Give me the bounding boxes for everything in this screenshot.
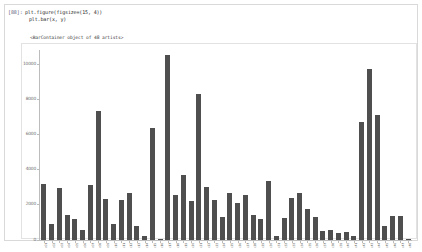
x-tick-label: c31 [278, 243, 281, 248]
code-line: plt.bar(x, y) [29, 16, 66, 23]
x-tick-label: c04 [68, 243, 71, 248]
bar [150, 128, 155, 240]
y-tick-mark [37, 134, 39, 135]
x-tick-label: c17 [169, 243, 172, 248]
y-tick-mark [37, 169, 39, 170]
y-tick-mark [37, 240, 39, 241]
x-tick-label: c24 [223, 243, 226, 248]
x-tick-label: c27 [247, 243, 250, 248]
x-tick-label: c40 [347, 243, 350, 248]
x-tick-label: c16 [161, 243, 164, 248]
bar [49, 224, 54, 240]
x-tick-label: c22 [208, 243, 211, 248]
x-tick-label: c38 [332, 243, 335, 248]
x-tick-label: c15 [154, 243, 157, 248]
bar [305, 209, 310, 240]
bar [196, 94, 201, 240]
x-tick-label: c03 [61, 243, 64, 248]
bar-series [40, 50, 412, 240]
bar [158, 239, 163, 240]
x-tick-label: c34 [301, 243, 304, 248]
bar [351, 236, 356, 240]
bar [72, 219, 77, 240]
y-tick-label: 8000 [26, 96, 36, 102]
x-tick-label: c09 [107, 243, 110, 248]
y-tick-label: 2000 [26, 201, 36, 207]
bar [80, 230, 85, 240]
x-tick-label: c46 [394, 243, 397, 248]
bar [359, 122, 364, 240]
bar [406, 239, 411, 240]
x-tick-label: c37 [324, 243, 327, 248]
bar [243, 195, 248, 240]
bar [88, 185, 93, 240]
x-tick-label: c30 [270, 243, 273, 248]
y-tick-label: 0 [33, 237, 36, 243]
x-tick-label: c20 [192, 243, 195, 248]
bar [204, 187, 209, 240]
y-tick-label: 10000 [23, 61, 36, 67]
x-tick-label: c23 [216, 243, 219, 248]
code-line: plt.figure(figsize=(15, 4)) [25, 9, 102, 16]
x-tick-label: c48 [409, 243, 412, 248]
bar [41, 184, 46, 240]
bar [65, 215, 70, 241]
bar [313, 217, 318, 240]
x-tick-label: c11 [123, 243, 126, 248]
x-tick-label: c42 [363, 243, 366, 248]
x-tick-label: c06 [84, 243, 87, 248]
bar [320, 231, 325, 240]
x-tick-label: c41 [355, 243, 358, 248]
y-tick-mark [37, 99, 39, 100]
bar [220, 217, 225, 240]
notebook-cell: [88]: plt.figure(figsize=(15, 4)) plt.ba… [4, 4, 418, 241]
bar [282, 218, 287, 240]
cell-prompt-label: [88]: [8, 9, 23, 16]
matplotlib-figure-output: 0200040006000800010000 c01c02c03c04c05c0… [21, 43, 417, 239]
code-input-area[interactable]: [88]: plt.figure(figsize=(15, 4)) plt.ba… [5, 9, 419, 29]
x-tick-label: c29 [262, 243, 265, 248]
x-tick-label: c39 [340, 243, 343, 248]
bar [274, 236, 279, 240]
y-tick-mark [37, 64, 39, 65]
x-tick-label: c05 [76, 243, 79, 248]
x-axis-ticks: c01c02c03c04c05c06c07c08c09c10c11c12c13c… [40, 241, 412, 252]
bar [134, 226, 139, 240]
bar [297, 193, 302, 241]
x-tick-label: c02 [53, 243, 56, 248]
bar [111, 224, 116, 240]
bar [258, 219, 263, 240]
x-tick-label: c36 [316, 243, 319, 248]
x-tick-label: c47 [402, 243, 405, 248]
x-tick-label: c07 [92, 243, 95, 248]
cell-text-output: <BarContainer object of 48 artists> [30, 34, 123, 41]
x-tick-label: c26 [239, 243, 242, 248]
bar [289, 198, 294, 240]
x-tick-label: c33 [293, 243, 296, 248]
bar [212, 200, 217, 240]
bar [251, 215, 256, 240]
y-tick-label: 6000 [26, 131, 36, 137]
bar [165, 55, 170, 240]
bar [235, 203, 240, 240]
x-tick-label: c21 [200, 243, 203, 248]
x-tick-label: c10 [115, 243, 118, 248]
x-tick-label: c19 [185, 243, 188, 248]
x-tick-label: c45 [386, 243, 389, 248]
bar [336, 233, 341, 240]
bar [398, 216, 403, 240]
x-tick-label: c43 [371, 243, 374, 248]
bar [382, 226, 387, 240]
x-tick-label: c13 [138, 243, 141, 248]
bar [367, 69, 372, 240]
bar [142, 236, 147, 240]
bar [344, 232, 349, 240]
bar [227, 193, 232, 240]
y-tick-mark [37, 204, 39, 205]
bar [328, 230, 333, 240]
x-tick-label: c35 [309, 243, 312, 248]
x-tick-label: c18 [177, 243, 180, 248]
bar [96, 111, 101, 240]
y-tick-label: 4000 [26, 166, 36, 172]
plot-axes: 0200040006000800010000 c01c02c03c04c05c0… [39, 50, 412, 241]
